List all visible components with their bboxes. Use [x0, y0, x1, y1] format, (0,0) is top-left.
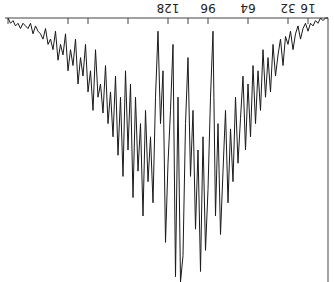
- x-tick-label: 32: [280, 1, 295, 15]
- spectrum-line: [8, 18, 328, 282]
- x-tick-label: 16: [300, 1, 315, 15]
- x-axis-tick-labels: 16326496128: [157, 1, 316, 15]
- x-tick-label: 64: [240, 1, 255, 15]
- x-tick-label: 96: [200, 1, 215, 15]
- x-axis-ticks: [8, 18, 308, 24]
- x-tick-label: 128: [157, 1, 180, 15]
- spectrum-chart: 16326496128: [0, 0, 334, 282]
- plot-frame: [5, 18, 328, 282]
